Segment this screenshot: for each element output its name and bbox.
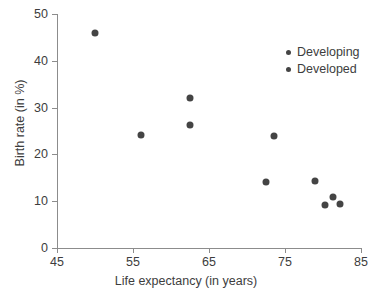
data-point (337, 201, 344, 208)
y-tick-mark (52, 108, 57, 109)
data-point (322, 201, 329, 208)
legend-marker-icon (286, 67, 291, 72)
legend-item-label: Developed (297, 62, 357, 76)
x-axis-title: Life expectancy (in years) (0, 274, 372, 288)
y-tick-mark (52, 14, 57, 15)
data-point (92, 29, 99, 36)
data-point (187, 95, 194, 102)
data-point (329, 194, 336, 201)
y-tick-label: 10 (18, 194, 48, 208)
x-tick-mark (133, 248, 134, 253)
legend-item[interactable]: Developing (286, 44, 360, 60)
scatter-chart: 01020304050 4555657585 DevelopingDevelop… (0, 0, 372, 294)
chart-legend: DevelopingDeveloped (286, 44, 360, 78)
x-tick-label: 65 (189, 255, 229, 269)
data-point (312, 178, 319, 185)
x-tick-mark (285, 248, 286, 253)
x-tick-label: 85 (341, 255, 372, 269)
y-axis-line (57, 14, 58, 248)
y-tick-mark (52, 201, 57, 202)
y-tick-label: 0 (18, 241, 48, 255)
x-tick-label: 45 (37, 255, 77, 269)
y-axis-title: Birth rate (in %) (13, 58, 27, 188)
x-tick-label: 55 (113, 255, 153, 269)
data-point (270, 132, 277, 139)
legend-marker-icon (286, 50, 291, 55)
x-tick-label: 75 (265, 255, 305, 269)
data-point (137, 131, 144, 138)
legend-item[interactable]: Developed (286, 61, 360, 77)
y-tick-mark (52, 61, 57, 62)
x-tick-mark (57, 248, 58, 253)
y-tick-label: 50 (18, 7, 48, 21)
data-point (187, 121, 194, 128)
y-tick-mark (52, 154, 57, 155)
data-point (263, 179, 270, 186)
x-tick-mark (209, 248, 210, 253)
legend-item-label: Developing (297, 45, 360, 59)
x-tick-mark (361, 248, 362, 253)
